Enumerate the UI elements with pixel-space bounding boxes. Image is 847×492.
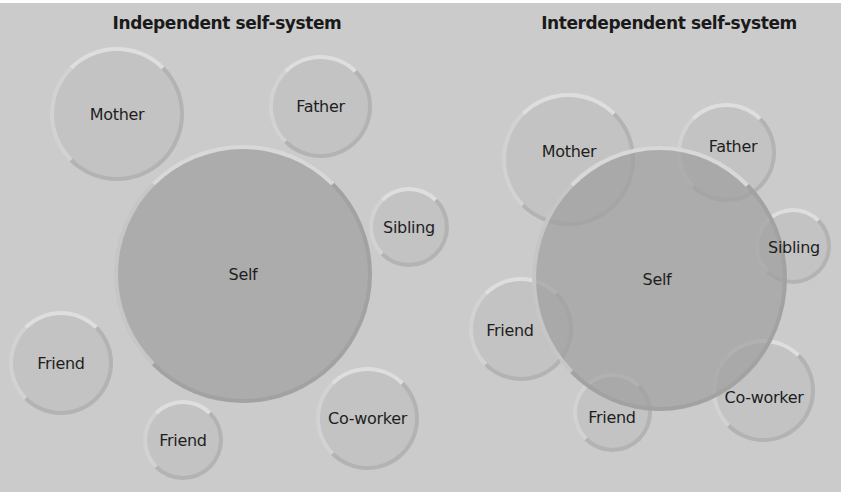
independent-sibling-circle: Sibling (369, 187, 449, 267)
interdependent-friend-label-2: Friend (588, 408, 635, 427)
independent-friend-circle-1: Friend (9, 311, 113, 415)
interdependent-coworker-label: Co-worker (725, 388, 804, 407)
independent-sibling-label: Sibling (383, 218, 435, 237)
independent-coworker-circle: Co-worker (316, 367, 419, 470)
independent-self-label: Self (229, 265, 258, 284)
independent-friend-circle-2: Friend (143, 400, 223, 480)
interdependent-father-label: Father (709, 137, 758, 156)
independent-father-label: Father (296, 97, 345, 116)
interdependent-title: Interdependent self-system (541, 13, 797, 33)
independent-mother-label: Mother (90, 105, 145, 124)
interdependent-mother-label: Mother (542, 142, 597, 161)
independent-father-circle: Father (269, 55, 372, 158)
independent-friend-label-1: Friend (37, 354, 84, 373)
diagram-panel: Independent self-system Mother Father Se… (0, 3, 841, 492)
interdependent-self-label: Self (643, 270, 672, 289)
independent-title: Independent self-system (113, 13, 342, 33)
independent-coworker-label: Co-worker (328, 409, 407, 428)
interdependent-friend-label-1: Friend (486, 321, 533, 340)
interdependent-sibling-label: Sibling (768, 238, 820, 257)
independent-self-circle: Self (114, 145, 372, 403)
independent-mother-circle: Mother (50, 47, 184, 181)
independent-friend-label-2: Friend (159, 431, 206, 450)
